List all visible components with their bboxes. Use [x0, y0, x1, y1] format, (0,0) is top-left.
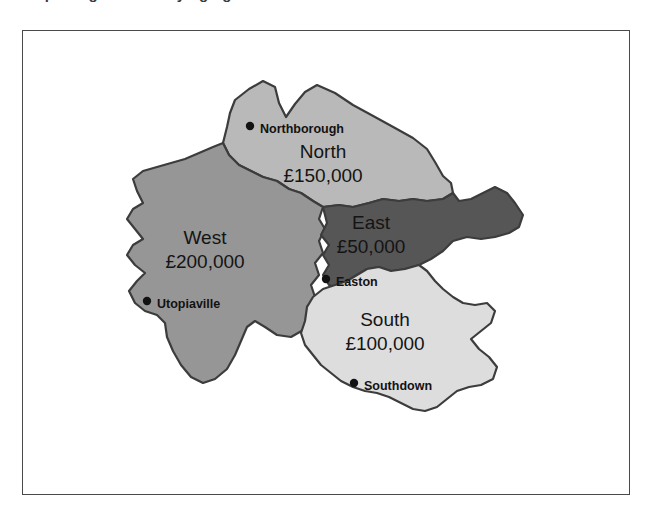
city-dot-southdown — [350, 379, 358, 387]
region-label-south: South — [360, 309, 410, 330]
region-label-west: West — [184, 227, 228, 248]
city-dot-northborough — [246, 122, 254, 130]
regional-value-map: Northborough North £150,000 West £200,00… — [23, 31, 631, 496]
city-label-northborough: Northborough — [260, 122, 344, 136]
clipped-text-strip: Exporting the underlying figure — [0, 0, 649, 14]
clipped-heading-fragment: Exporting the underlying figure — [26, 0, 256, 2]
city-label-southdown: Southdown — [364, 379, 432, 393]
region-value-north: £150,000 — [283, 165, 362, 186]
region-label-east: East — [352, 212, 391, 233]
city-label-utopiaville: Utopiaville — [157, 297, 220, 311]
city-dot-easton — [322, 275, 330, 283]
region-value-east: £50,000 — [337, 236, 406, 257]
city-label-easton: Easton — [336, 275, 378, 289]
region-value-west: £200,000 — [165, 251, 244, 272]
region-value-south: £100,000 — [345, 333, 424, 354]
city-dot-utopiaville — [143, 297, 151, 305]
figure-frame: Northborough North £150,000 West £200,00… — [22, 30, 630, 495]
region-label-north: North — [300, 141, 346, 162]
